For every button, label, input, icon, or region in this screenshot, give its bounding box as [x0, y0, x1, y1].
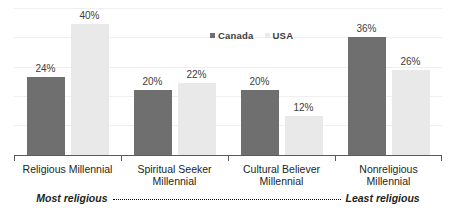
category-label-spiritual-seeker-millennial: Spiritual Seeker Millennial [121, 163, 228, 187]
bar-rect [27, 77, 65, 155]
bar-value-label: 20% [249, 77, 269, 87]
category-label-cultural-believer-millennial: Cultural Believer Millennial [228, 163, 335, 187]
axis-tick [14, 155, 15, 161]
legend-label: USA [273, 30, 294, 41]
bar-canada-religious-millennial[interactable]: 24% [27, 8, 65, 155]
bar-rect [134, 90, 172, 155]
category-label-religious-millennial: Religious Millennial [14, 163, 121, 187]
bar-value-label: 22% [186, 70, 206, 80]
chart-legend: Canada USA [210, 30, 293, 41]
category-label-nonreligious-millennial: Nonreligious Millennial [335, 163, 442, 187]
bar-rect [285, 116, 323, 155]
category-labels: Religious Millennial Spiritual Seeker Mi… [14, 163, 442, 187]
bar-rect [178, 83, 216, 155]
bar-value-label: 24% [35, 64, 55, 74]
axis-tick [335, 155, 336, 161]
grouped-bar-chart: 24% 40% 20% 22% [0, 0, 452, 213]
bar-canada-spiritual-seeker-millennial[interactable]: 20% [134, 8, 172, 155]
religiosity-spectrum-annotation: Most religious Least religious [14, 192, 442, 204]
spectrum-left-label: Most religious [36, 192, 107, 204]
legend-swatch-icon [265, 33, 270, 38]
bar-value-label: 12% [293, 103, 313, 113]
bar-value-label: 26% [400, 57, 420, 67]
legend-entry-canada[interactable]: Canada [210, 30, 254, 41]
axis-tick [121, 155, 122, 161]
bar-canada-nonreligious-millennial[interactable]: 36% [348, 8, 386, 155]
bar-rect [348, 37, 386, 155]
legend-swatch-icon [210, 33, 215, 38]
bar-usa-nonreligious-millennial[interactable]: 26% [392, 8, 430, 155]
bar-group-nonreligious-millennial: 36% 26% [335, 8, 442, 155]
plot-area: 24% 40% 20% 22% [14, 8, 442, 155]
spectrum-dotted-line [113, 198, 341, 200]
bar-value-label: 36% [356, 24, 376, 34]
bar-usa-religious-millennial[interactable]: 40% [71, 8, 109, 155]
bar-rect [392, 70, 430, 155]
bar-group-religious-millennial: 24% 40% [14, 8, 121, 155]
legend-entry-usa[interactable]: USA [265, 30, 294, 41]
axis-tick [441, 155, 442, 161]
spectrum-right-label: Least religious [346, 192, 420, 204]
axis-tick [228, 155, 229, 161]
bar-rect [241, 90, 279, 155]
x-axis [14, 155, 442, 161]
legend-label: Canada [218, 30, 254, 41]
bar-value-label: 40% [79, 11, 99, 21]
bar-value-label: 20% [142, 77, 162, 87]
bar-rect [71, 24, 109, 155]
